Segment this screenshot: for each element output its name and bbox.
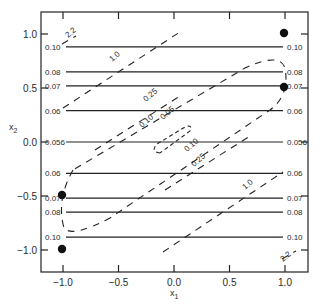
x-tick-label: 1.0 [278,277,292,288]
design-point-marker [280,29,288,37]
contour-labels: 0.100.100.080.080.070.070.060.060.0560.0… [45,25,308,263]
contour-label-right: 0.07 [287,194,303,203]
dashed-contour-label: 2.2 [64,25,79,39]
y-axis-title: x2 [9,122,18,134]
contour-label-left: 0.07 [45,82,61,91]
contour-label-right: 0.056 [287,138,308,147]
design-point-marker [58,245,66,253]
contour-label-left: 0.10 [45,233,61,242]
y-tick-label: −1.0 [17,245,37,256]
contour-label-left: 0.10 [45,43,61,52]
dashed-contour-label: 1.0 [241,177,256,191]
contour-label-right: 0.06 [287,107,303,116]
x-tick-label: 0.0 [167,277,181,288]
dashed-contour-label: 0.25 [142,86,160,103]
contour-label-right: 0.06 [287,169,303,178]
solid-contours [66,47,283,237]
contour-label-left: 0.056 [45,138,66,147]
contour-label-left: 0.06 [45,169,61,178]
design-point-marker [280,83,288,91]
dashed-contour-label: 0.10 [183,136,201,153]
y-tick-label: 0.0 [23,137,37,148]
dashed-contour-line [63,30,183,108]
contour-label-left: 0.08 [45,68,61,77]
y-tick-label: 1.0 [23,29,37,40]
dashed-contour-label: 2.2 [279,249,294,263]
x-tick-label: −1.0 [53,277,73,288]
contour-label-right: 0.08 [287,68,303,77]
contour-label-right: 0.10 [287,43,303,52]
y-tick-label: 0.5 [23,83,37,94]
design-points [58,29,288,253]
x-tick-label: −0.5 [109,277,129,288]
dashed-contour-label: 1.0 [108,49,123,63]
x-axis-title: x1 [170,288,179,300]
dashed-contours [61,30,296,259]
design-point-marker [58,191,66,199]
contour-label-right: 0.08 [287,208,303,217]
y-tick-label: −0.5 [17,191,37,202]
contour-label-left: 0.06 [45,107,61,116]
contour-label-right: 0.10 [287,233,303,242]
dashed-contour-line [165,136,250,190]
contour-label-right: 0.07 [287,82,303,91]
x-tick-label: 0.5 [223,277,237,288]
dashed-contour-label: 0.05 [159,104,177,121]
contour-chart: −1.0−0.50.00.51.01.00.50.0−0.5−1.0 0.100… [0,0,320,305]
contour-label-left: 0.08 [45,208,61,217]
